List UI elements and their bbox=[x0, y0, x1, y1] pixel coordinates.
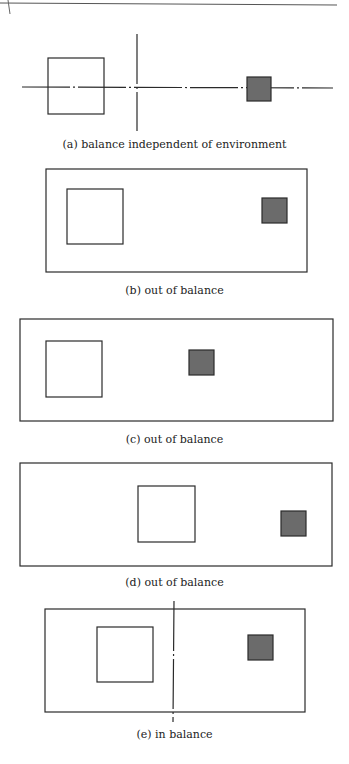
open-square bbox=[97, 627, 153, 682]
gray-square bbox=[281, 511, 306, 536]
panel-b bbox=[46, 169, 307, 272]
corner-mark bbox=[8, 0, 10, 14]
caption-c: (c) out of balance bbox=[0, 433, 349, 446]
caption-a: (a) balance independent of environment bbox=[0, 138, 349, 151]
open-square bbox=[46, 341, 102, 397]
top-rule bbox=[0, 3, 337, 5]
gray-square bbox=[262, 198, 287, 223]
panel-e bbox=[45, 601, 305, 722]
caption-e: (e) in balance bbox=[0, 728, 349, 741]
gray-square bbox=[189, 350, 214, 375]
open-square bbox=[48, 58, 104, 114]
panel-d bbox=[20, 463, 332, 566]
caption-d: (d) out of balance bbox=[0, 576, 349, 589]
open-square bbox=[138, 486, 195, 542]
balance-diagram bbox=[0, 0, 349, 764]
balance-axis bbox=[173, 601, 174, 722]
gray-square bbox=[248, 635, 273, 660]
horizontal-axis bbox=[22, 87, 333, 88]
gray-square bbox=[247, 77, 271, 101]
open-square bbox=[67, 189, 123, 244]
panel-c bbox=[20, 319, 333, 421]
panel-a bbox=[22, 34, 333, 131]
caption-b: (b) out of balance bbox=[0, 284, 349, 297]
frame bbox=[20, 319, 333, 421]
